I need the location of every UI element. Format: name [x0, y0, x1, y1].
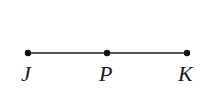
label-p: P: [98, 61, 112, 86]
point-k: [184, 50, 190, 56]
label-j: J: [21, 61, 32, 86]
point-j: [25, 50, 31, 56]
label-k: K: [177, 61, 194, 86]
point-p: [104, 50, 110, 56]
line-segment-diagram: J P K: [0, 0, 203, 100]
